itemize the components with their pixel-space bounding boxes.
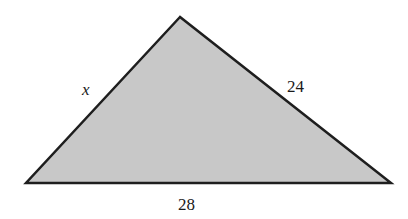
triangle-diagram: x 24 28 xyxy=(0,0,408,219)
base-label: 28 xyxy=(178,195,195,214)
left-side-label: x xyxy=(81,80,90,99)
right-side-label: 24 xyxy=(287,77,305,96)
triangle-shape xyxy=(26,17,391,183)
